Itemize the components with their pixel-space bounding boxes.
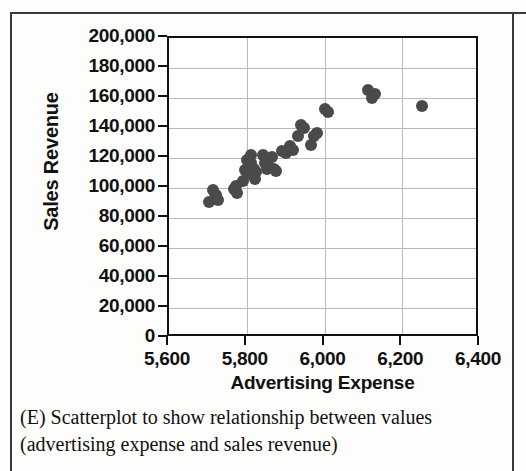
gridline <box>169 68 476 69</box>
gridline <box>247 38 248 334</box>
gridline <box>169 158 476 159</box>
caption-line-1: (E) Scatterplot to show relationship bet… <box>20 406 376 428</box>
x-tick-label: 6,200 <box>355 349 445 368</box>
data-point <box>270 165 282 177</box>
gridline <box>169 98 476 99</box>
y-tick-mark <box>158 215 167 217</box>
page-rule-right <box>512 12 514 471</box>
gridline <box>169 278 476 279</box>
y-tick-mark <box>158 65 167 67</box>
x-tick-label: 5,800 <box>200 349 290 368</box>
y-tick-label: 60,000 <box>45 236 155 255</box>
gridline <box>169 248 476 249</box>
y-tick-label: 0 <box>45 326 155 345</box>
y-tick-label: 160,000 <box>45 86 155 105</box>
y-tick-mark <box>158 155 167 157</box>
gridline <box>169 128 476 129</box>
y-tick-mark <box>158 305 167 307</box>
x-tick-label: 6,000 <box>278 349 368 368</box>
x-tick-mark <box>166 336 168 345</box>
gridline <box>402 38 403 334</box>
figure-container: Sales Revenue 020,00040,00060,00080,0001… <box>0 0 526 471</box>
data-point <box>322 106 334 118</box>
gridline <box>169 218 476 219</box>
data-point <box>231 187 243 199</box>
x-tick-mark <box>322 336 324 345</box>
figure-caption: (E) Scatterplot to show relationship bet… <box>20 404 500 458</box>
scatterplot: Sales Revenue 020,00040,00060,00080,0001… <box>0 0 500 400</box>
x-tick-mark <box>244 336 246 345</box>
plot-area <box>167 36 478 336</box>
y-tick-mark <box>158 95 167 97</box>
x-tick-mark <box>477 336 479 345</box>
data-point <box>212 194 224 206</box>
y-tick-label: 120,000 <box>45 146 155 165</box>
y-tick-mark <box>158 185 167 187</box>
data-point <box>416 100 428 112</box>
y-tick-label: 200,000 <box>45 26 155 45</box>
x-tick-mark <box>399 336 401 345</box>
y-tick-label: 180,000 <box>45 56 155 75</box>
y-tick-mark <box>158 245 167 247</box>
y-tick-mark <box>158 275 167 277</box>
gridline <box>325 38 326 334</box>
y-tick-label: 20,000 <box>45 296 155 315</box>
data-point <box>287 144 299 156</box>
y-tick-label: 100,000 <box>45 176 155 195</box>
x-tick-label: 5,600 <box>122 349 212 368</box>
y-tick-label: 140,000 <box>45 116 155 135</box>
x-axis-title: Advertising Expense <box>167 372 478 394</box>
data-point <box>311 127 323 139</box>
gridline <box>169 308 476 309</box>
y-tick-mark <box>158 125 167 127</box>
y-tick-mark <box>158 35 167 37</box>
y-tick-label: 40,000 <box>45 266 155 285</box>
y-tick-label: 80,000 <box>45 206 155 225</box>
x-tick-label: 6,400 <box>433 349 523 368</box>
